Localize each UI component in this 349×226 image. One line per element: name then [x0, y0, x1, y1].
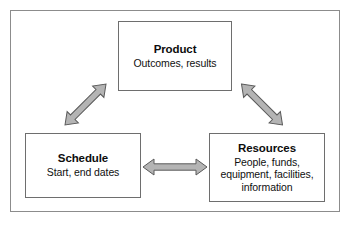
node-resources-description-line-3: information	[221, 181, 314, 194]
node-schedule-description: Start, end dates	[44, 166, 123, 179]
node-resources[interactable]: Resources People, funds, equipment, faci…	[209, 133, 325, 202]
node-resources-title: Resources	[238, 142, 296, 155]
node-resources-description-line-1: People, funds,	[221, 156, 314, 169]
node-schedule-title: Schedule	[58, 152, 108, 165]
node-product-description-line-1: Outcomes, results	[134, 57, 217, 70]
node-resources-description: People, funds, equipment, facilities, in…	[218, 156, 317, 194]
diagram-canvas: Product Outcomes, results Schedule Start…	[0, 0, 349, 226]
node-resources-description-line-2: equipment, facilities,	[221, 168, 314, 181]
node-product-title: Product	[154, 43, 197, 56]
node-schedule[interactable]: Schedule Start, end dates	[25, 133, 141, 198]
node-product[interactable]: Product Outcomes, results	[118, 21, 232, 91]
node-schedule-description-line-1: Start, end dates	[47, 166, 120, 179]
node-product-description: Outcomes, results	[131, 57, 220, 70]
